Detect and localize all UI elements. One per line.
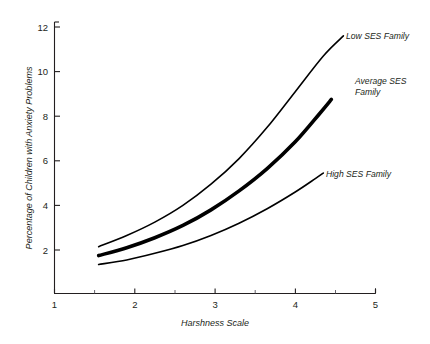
series-line-low-ses [99, 36, 344, 247]
series-label-high-ses: High SES Family [326, 169, 392, 179]
x-tick-label-4: 4 [293, 299, 298, 310]
x-tick-label-2: 2 [132, 299, 137, 310]
series-line-high-ses [99, 173, 324, 264]
x-axis-ticks: 1 2 3 4 5 [52, 289, 378, 311]
y-tick-label-8: 8 [43, 111, 48, 122]
x-axis-title: Harshness Scale [181, 318, 249, 328]
x-tick-label-3: 3 [212, 299, 217, 310]
y-tick-label-2: 2 [43, 245, 48, 256]
series-label-average-ses-line2: Family [355, 87, 381, 97]
y-axis-ticks: 2 4 6 8 10 12 [37, 22, 60, 256]
chart-figure: 2 4 6 8 10 12 1 2 3 4 5 Harshness Scale [0, 0, 430, 344]
series-label-low-ses: Low SES Family [346, 31, 410, 41]
y-tick-label-6: 6 [43, 155, 48, 166]
series-label-average-ses: Average SES [354, 76, 407, 86]
x-tick-label-1: 1 [52, 299, 57, 310]
y-axis-title: Percentage of Children with Anxiety Prob… [24, 66, 34, 249]
chart-svg: 2 4 6 8 10 12 1 2 3 4 5 Harshness Scale [0, 0, 430, 344]
y-tick-label-12: 12 [37, 22, 48, 33]
y-tick-label-4: 4 [43, 200, 48, 211]
y-tick-label-10: 10 [37, 66, 48, 77]
x-tick-label-5: 5 [373, 299, 378, 310]
